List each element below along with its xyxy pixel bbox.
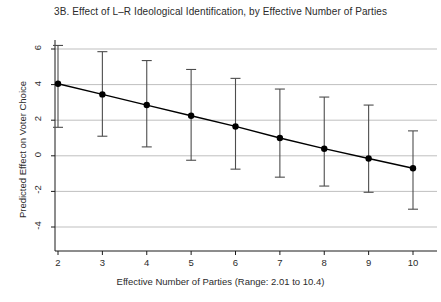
data-point xyxy=(55,81,61,87)
x-tick-label: 8 xyxy=(312,257,336,268)
x-tick-label: 7 xyxy=(268,257,292,268)
x-tick-label: 10 xyxy=(401,257,425,268)
chart-figure: 3B. Effect of L–R Ideological Identifica… xyxy=(0,0,441,302)
y-tick-label: 6 xyxy=(32,36,43,60)
data-point xyxy=(99,91,105,97)
y-tick-label: -4 xyxy=(32,214,43,238)
y-tick-label: 4 xyxy=(32,71,43,95)
data-point xyxy=(321,145,327,151)
data-point xyxy=(277,135,283,141)
data-point xyxy=(188,113,194,119)
x-tick-label: 4 xyxy=(135,257,159,268)
y-tick-label: -2 xyxy=(32,178,43,202)
y-tick-label: 2 xyxy=(32,107,43,131)
data-point xyxy=(365,155,371,161)
x-tick-label: 3 xyxy=(90,257,114,268)
y-tick-label: 0 xyxy=(32,142,43,166)
x-tick-label: 5 xyxy=(179,257,203,268)
data-point xyxy=(232,123,238,129)
data-point xyxy=(144,102,150,108)
x-tick-label: 6 xyxy=(224,257,248,268)
x-tick-label: 2 xyxy=(46,257,70,268)
x-tick-label: 9 xyxy=(357,257,381,268)
data-point xyxy=(410,165,416,171)
